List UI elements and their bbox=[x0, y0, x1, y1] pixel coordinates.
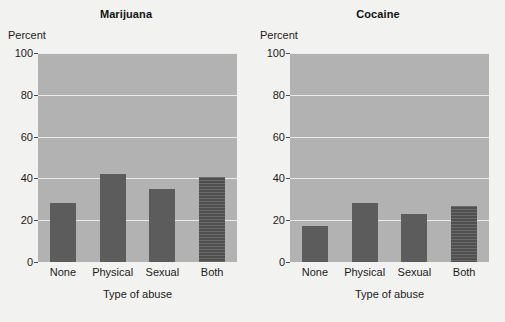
bar-slot-sexual bbox=[390, 53, 440, 262]
bar-slot-both bbox=[439, 53, 489, 262]
x-axis-label-marijuana: Type of abuse bbox=[38, 288, 237, 300]
chart-panel-cocaine: Cocaine Percent bbox=[252, 0, 504, 322]
x-tick-label-physical: Physical bbox=[88, 266, 138, 278]
bar-group-marijuana bbox=[38, 53, 237, 262]
x-tick-label-sexual: Sexual bbox=[138, 266, 188, 278]
chart-title-marijuana: Marijuana bbox=[0, 8, 252, 20]
y-tick-mark-40 bbox=[34, 178, 38, 179]
chart-title-cocaine: Cocaine bbox=[252, 8, 504, 20]
y-tick-mark-60 bbox=[34, 137, 38, 138]
bar-cocaine-both bbox=[451, 206, 477, 262]
y-tick-mark-0 bbox=[286, 262, 290, 263]
bar-slot-physical bbox=[88, 53, 138, 262]
y-tick-mark-40 bbox=[286, 178, 290, 179]
bar-slot-sexual bbox=[138, 53, 188, 262]
bar-marijuana-both bbox=[199, 177, 225, 262]
x-tick-label-physical: Physical bbox=[340, 266, 390, 278]
y-tick-mark-20 bbox=[286, 220, 290, 221]
y-tick-mark-100 bbox=[34, 53, 38, 54]
x-axis-label-cocaine: Type of abuse bbox=[290, 288, 489, 300]
y-tick-mark-60 bbox=[286, 137, 290, 138]
bar-marijuana-physical bbox=[100, 174, 126, 262]
x-tick-label-both: Both bbox=[439, 266, 489, 278]
bar-slot-none bbox=[290, 53, 340, 262]
bar-slot-both bbox=[187, 53, 237, 262]
x-axis-tick-labels-marijuana: None Physical Sexual Both bbox=[38, 266, 237, 278]
x-axis-tick-labels-cocaine: None Physical Sexual Both bbox=[290, 266, 489, 278]
bar-cocaine-sexual bbox=[401, 214, 427, 262]
bar-cocaine-none bbox=[302, 226, 328, 262]
bar-marijuana-sexual bbox=[149, 189, 175, 262]
plot-area-marijuana bbox=[38, 53, 237, 262]
bar-marijuana-none bbox=[50, 203, 76, 262]
x-tick-label-both: Both bbox=[187, 266, 237, 278]
y-tick-mark-20 bbox=[34, 220, 38, 221]
bar-slot-physical bbox=[340, 53, 390, 262]
bar-group-cocaine bbox=[290, 53, 489, 262]
y-tick-mark-100 bbox=[286, 53, 290, 54]
chart-panel-marijuana: Marijuana Percent bbox=[0, 0, 252, 322]
y-axis-label-marijuana: Percent bbox=[8, 29, 46, 41]
x-tick-label-none: None bbox=[38, 266, 88, 278]
x-tick-label-none: None bbox=[290, 266, 340, 278]
two-panel-bar-chart-figure: Marijuana Percent bbox=[0, 0, 505, 322]
y-tick-mark-80 bbox=[286, 95, 290, 96]
y-tick-mark-0 bbox=[34, 262, 38, 263]
bar-slot-none bbox=[38, 53, 88, 262]
y-axis-label-cocaine: Percent bbox=[260, 29, 298, 41]
plot-area-cocaine bbox=[290, 53, 489, 262]
x-tick-label-sexual: Sexual bbox=[390, 266, 440, 278]
y-tick-mark-80 bbox=[34, 95, 38, 96]
bar-cocaine-physical bbox=[352, 203, 378, 262]
